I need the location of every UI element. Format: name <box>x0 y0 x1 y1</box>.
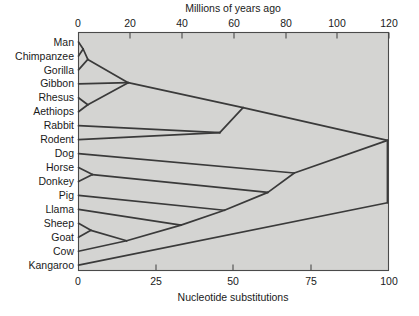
taxon-label: Goat <box>51 231 74 243</box>
top-tick-label-120: 120 <box>380 17 398 29</box>
bottom-tick-label-50: 50 <box>227 275 239 287</box>
tree-branch <box>79 83 129 84</box>
taxon-label: Kangaroo <box>28 259 74 271</box>
top-tick-label-80: 80 <box>280 17 292 29</box>
taxon-label: Pig <box>59 189 74 201</box>
phylogenetic-tree-figure: Millions of years ago 0 20 40 60 80 100 … <box>0 0 419 316</box>
taxon-label: Donkey <box>38 175 74 187</box>
taxon-label: Gorilla <box>44 64 75 76</box>
bottom-tick-label-75: 75 <box>305 275 317 287</box>
bottom-tick-label-0: 0 <box>75 275 81 287</box>
top-axis-title: Millions of years ago <box>185 2 281 14</box>
taxon-label: Gibbon <box>40 77 74 89</box>
taxon-label: Aethiops <box>33 105 74 117</box>
bottom-tick-label-25: 25 <box>150 275 162 287</box>
taxon-label: Man <box>54 36 75 48</box>
taxon-label: Llama <box>45 203 74 215</box>
taxon-label: Dog <box>55 147 74 159</box>
top-tick-label-40: 40 <box>176 17 188 29</box>
taxon-label: Chimpanzee <box>15 50 74 62</box>
taxon-label: Rabbit <box>44 119 74 131</box>
bottom-axis-title: Nucleotide substitutions <box>178 291 289 303</box>
taxon-label: Sheep <box>44 217 75 229</box>
taxon-label: Rodent <box>40 133 74 145</box>
top-tick-label-0: 0 <box>75 17 81 29</box>
taxon-label: Rhesus <box>38 91 74 103</box>
top-tick-label-60: 60 <box>228 17 240 29</box>
plot-area <box>79 33 389 271</box>
bottom-tick-label-100: 100 <box>380 275 398 287</box>
taxon-label: Horse <box>46 161 74 173</box>
top-tick-label-100: 100 <box>328 17 346 29</box>
top-tick-label-20: 20 <box>124 17 136 29</box>
taxon-label: Cow <box>53 245 74 257</box>
